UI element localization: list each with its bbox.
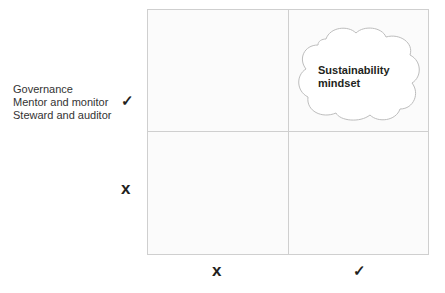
y-high-check-icon: ✓ [121, 92, 134, 110]
y-label-line-1: Governance [13, 83, 111, 96]
sustainability-mindset-label: Sustainability mindset [318, 64, 390, 90]
horizontal-divider [148, 131, 428, 132]
x-low-x-icon: x [212, 261, 221, 281]
vertical-divider [288, 10, 289, 254]
y-low-x-icon: x [121, 179, 130, 199]
cloud-label-line-1: Sustainability [318, 64, 390, 77]
cloud-label-line-2: mindset [318, 77, 390, 90]
y-label-line-3: Steward and auditor [13, 109, 111, 122]
x-high-check-icon: ✓ [353, 262, 366, 280]
y-axis-label: Governance Mentor and monitor Steward an… [13, 83, 111, 122]
y-label-line-2: Mentor and monitor [13, 96, 111, 109]
